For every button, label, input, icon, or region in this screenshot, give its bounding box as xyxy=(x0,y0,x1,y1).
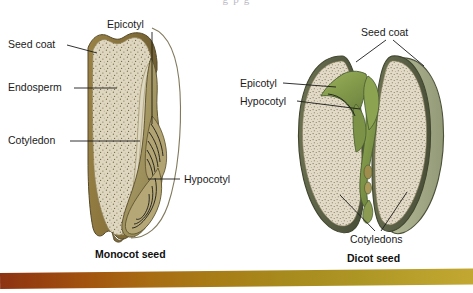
caption-dicot-seed: Dicot seed xyxy=(347,252,400,264)
caption-monocot-seed: Monocot seed xyxy=(95,248,166,260)
label-dicot-seed-coat: Seed coat xyxy=(361,26,408,38)
dicot-seed-diagram: Seed coat Epicotyl Hypocotyl Cotyledons … xyxy=(240,26,444,264)
label-monocot-endosperm: Endosperm xyxy=(8,81,62,93)
dicot-radicle-node-2 xyxy=(365,182,372,194)
label-monocot-cotyledon: Cotyledon xyxy=(8,134,55,146)
dicot-radicle-node xyxy=(364,165,372,179)
label-monocot-hypocotyl: Hypocotyl xyxy=(184,173,230,185)
monocot-seed-diagram: Seed coat Endosperm Cotyledon Epicotyl H… xyxy=(8,18,230,260)
label-dicot-cotyledons: Cotyledons xyxy=(350,233,403,245)
seed-structure-figure: Seed coat Endosperm Cotyledon Epicotyl H… xyxy=(0,0,473,293)
label-dicot-epicotyl: Epicotyl xyxy=(240,77,277,89)
leader-seed-coat-dicot xyxy=(356,40,386,62)
label-dicot-hypocotyl: Hypocotyl xyxy=(240,95,286,107)
label-monocot-seed-coat: Seed coat xyxy=(8,38,55,50)
figure-page: g p g xyxy=(0,0,473,293)
label-monocot-epicotyl: Epicotyl xyxy=(107,18,144,30)
